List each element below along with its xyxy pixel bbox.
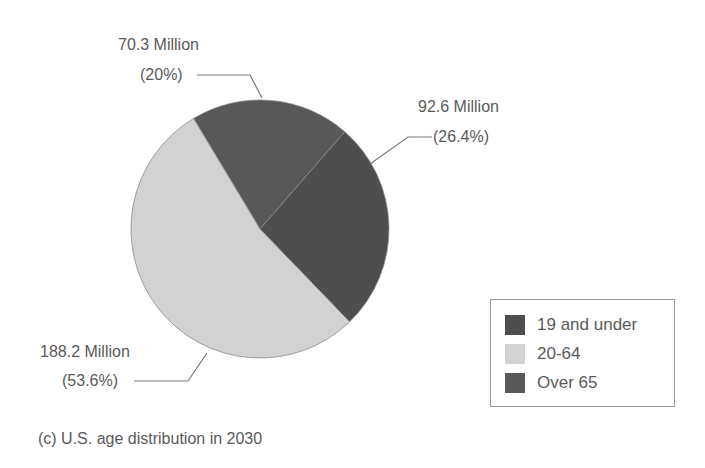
legend-item-20-64: 20-64 [505,343,580,365]
slice-label-over65-percent: (20%) [140,66,183,84]
slice-label-20-64-percent: (53.6%) [62,372,118,390]
leader-line-under19 [370,137,432,164]
leader-line-over65 [197,75,262,98]
slice-label-under19-value: 92.6 Million [418,98,499,116]
legend-item-19-and-under: 19 and under [505,314,637,336]
slice-label-20-64-value: 188.2 Million [40,343,130,361]
legend-swatch-medium-icon [505,373,525,393]
legend-label: 20-64 [537,344,580,364]
pie-slices [131,100,389,358]
slice-label-over65-value: 70.3 Million [118,36,199,54]
legend-label: 19 and under [537,315,637,335]
slice-label-under19-percent: (26.4%) [433,128,489,146]
leader-line-20-64 [134,353,207,381]
legend-item-over-65: Over 65 [505,372,597,394]
legend-label: Over 65 [537,373,597,393]
chart-legend: 19 and under 20-64 Over 65 [490,299,675,407]
legend-swatch-light-icon [505,344,525,364]
legend-swatch-dark-icon [505,315,525,335]
figure-caption: (c) U.S. age distribution in 2030 [38,430,262,448]
